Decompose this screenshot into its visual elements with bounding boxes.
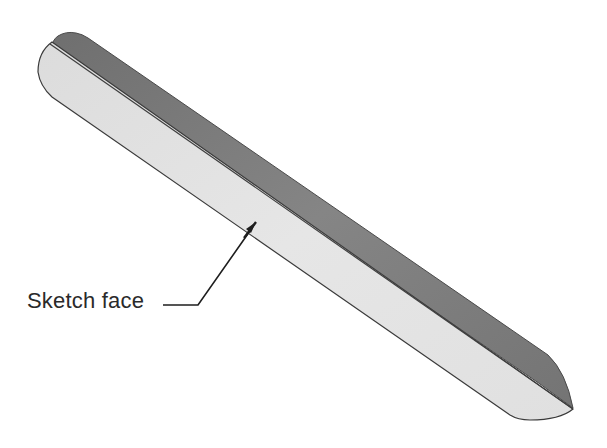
part-diagram bbox=[0, 0, 607, 448]
sketch-face bbox=[38, 42, 573, 420]
callout-label-sketch-face: Sketch face bbox=[27, 288, 144, 314]
face-edge-line bbox=[50, 44, 573, 409]
top-strip-face bbox=[52, 32, 573, 408]
callout-leader-line bbox=[163, 228, 252, 305]
